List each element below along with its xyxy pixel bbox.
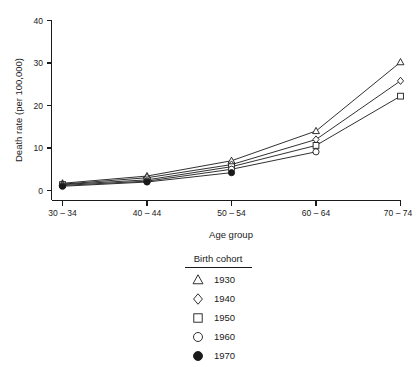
y-tick-label-3: 30 xyxy=(34,58,44,68)
data-point-1950-4 xyxy=(398,93,404,99)
x-axis-ticks xyxy=(63,201,401,206)
legend-title: Birth cohort xyxy=(194,253,243,264)
y-tick-label-0: 0 xyxy=(38,186,43,196)
y-axis-ticks xyxy=(47,21,52,191)
x-tick-label-1: 40 – 44 xyxy=(133,208,162,218)
legend-triangle-up-open-icon xyxy=(193,275,203,284)
legend-label-1970: 1970 xyxy=(214,350,235,361)
legend-label-1950: 1950 xyxy=(214,312,235,323)
legend-label-1960: 1960 xyxy=(214,331,235,342)
data-point-1940-4 xyxy=(397,77,403,84)
x-axis-title: Age group xyxy=(209,229,253,240)
data-point-1950-3 xyxy=(313,143,319,149)
legend-label-1940: 1940 xyxy=(214,293,235,304)
x-tick-label-2: 50 – 54 xyxy=(217,208,246,218)
x-tick-label-4: 70 – 74 xyxy=(384,208,413,218)
legend-circle-filled-icon xyxy=(194,352,203,361)
legend-square-open-icon xyxy=(194,314,202,322)
x-tick-label-0: 30 – 34 xyxy=(48,208,77,218)
data-point-1970-0 xyxy=(59,183,65,189)
y-tick-label-1: 10 xyxy=(34,143,44,153)
legend-diamond-open-icon xyxy=(194,294,203,304)
data-point-1930-3 xyxy=(313,127,320,133)
y-axis-title: Death rate (per 100,000) xyxy=(13,58,24,162)
y-tick-label-2: 20 xyxy=(34,101,44,111)
series-layer xyxy=(59,59,404,190)
data-point-1930-4 xyxy=(397,59,404,65)
chart-figure: 40 30 20 10 0 30 – 34 40 – 44 50 – 54 60… xyxy=(0,0,420,367)
legend-label-1930: 1930 xyxy=(214,274,235,285)
legend-circle-open-icon xyxy=(194,333,203,342)
legend: Birth cohort 19301940195019601970 xyxy=(185,253,252,361)
data-point-1940-3 xyxy=(313,136,319,143)
data-point-1960-3 xyxy=(313,149,319,155)
x-tick-label-3: 60 – 64 xyxy=(302,208,331,218)
legend-items: 19301940195019601970 xyxy=(193,274,235,361)
data-point-1970-1 xyxy=(144,179,150,185)
y-tick-label-4: 40 xyxy=(34,16,44,26)
data-point-1970-2 xyxy=(228,170,234,176)
line-chart: 40 30 20 10 0 30 – 34 40 – 44 50 – 54 60… xyxy=(0,0,420,367)
